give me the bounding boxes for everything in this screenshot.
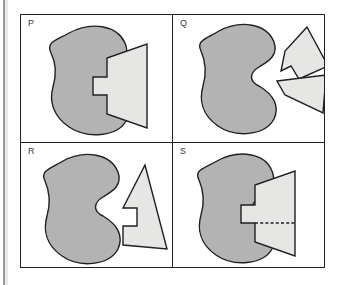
page-edge-shadow xyxy=(5,0,8,285)
panel-label-r: R xyxy=(28,147,35,156)
blob-shape-r xyxy=(44,154,120,263)
panel-s-drawing xyxy=(173,143,324,270)
panel-label-p: P xyxy=(28,19,34,28)
arrow-polygon-q xyxy=(281,27,324,79)
panel-q: Q xyxy=(173,15,324,142)
panel-p-drawing xyxy=(21,15,172,142)
panel-q-drawing xyxy=(173,15,324,142)
panel-r: R xyxy=(21,143,172,270)
panel-label-s: S xyxy=(180,147,186,156)
trapezoid-polygon-q xyxy=(277,75,324,113)
panel-p: P xyxy=(21,15,172,142)
blob-shape-q xyxy=(200,24,276,133)
figure-frame: P Q R S xyxy=(20,14,325,268)
notched-triangle-r xyxy=(123,165,167,249)
panel-label-q: Q xyxy=(180,19,187,28)
panel-r-drawing xyxy=(21,143,172,270)
panel-s: S xyxy=(173,143,324,270)
page-edge-line xyxy=(3,0,5,285)
panel-grid: P Q R S xyxy=(21,15,324,267)
